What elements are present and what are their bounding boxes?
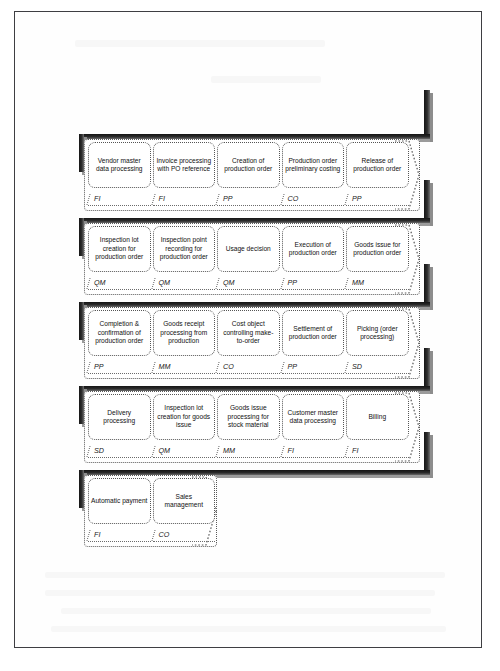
step-label: Picking (order processing) bbox=[349, 325, 406, 342]
module-tag: PP bbox=[282, 277, 345, 290]
paper-bleed-artifact bbox=[45, 572, 445, 578]
module-tag-label: MM bbox=[159, 362, 171, 371]
step-label: Inspection point recording for productio… bbox=[156, 236, 213, 261]
step-label: Settlement of production order bbox=[285, 325, 342, 342]
paper-bleed-artifact bbox=[51, 626, 446, 632]
module-tag-label: FI bbox=[159, 194, 165, 203]
paper-bleed-artifact bbox=[211, 76, 321, 83]
module-tag-label: PP bbox=[94, 362, 104, 371]
step-box[interactable]: Execution of production order bbox=[282, 226, 345, 272]
step-box[interactable]: Picking (order processing) bbox=[346, 310, 409, 356]
step-label: Usage decision bbox=[226, 245, 271, 253]
page-frame: Vendor master data processingInvoice pro… bbox=[14, 11, 482, 648]
module-tag: QM bbox=[88, 277, 151, 290]
step-label: Customer master data processing bbox=[285, 409, 342, 426]
step-box[interactable]: Customer master data processing bbox=[282, 394, 345, 440]
step-label: Delivery processing bbox=[91, 409, 148, 426]
module-tag-label: QM bbox=[223, 278, 235, 287]
step-label: Invoice processing with PO reference bbox=[156, 157, 213, 174]
process-row-2: Inspection lot creation for production o… bbox=[84, 223, 420, 295]
module-tag-label: FI bbox=[288, 446, 294, 455]
step-label: Sales management bbox=[156, 493, 213, 510]
module-tag-label: PP bbox=[288, 278, 298, 287]
step-box-group: Delivery processingInspection lot creati… bbox=[88, 394, 411, 440]
step-label: Inspection lot creation for production o… bbox=[91, 236, 148, 261]
module-tag-label: PP bbox=[352, 194, 362, 203]
step-box[interactable]: Cost object controlling make-to-order bbox=[217, 310, 280, 356]
module-tag: SD bbox=[346, 361, 409, 374]
step-box[interactable]: Vendor master data processing bbox=[88, 142, 151, 188]
module-tag-label: PP bbox=[288, 362, 298, 371]
step-label: Automatic payment bbox=[91, 497, 147, 505]
step-box[interactable]: Automatic payment bbox=[88, 478, 151, 524]
paper-bleed-artifact bbox=[61, 608, 431, 614]
module-tag: PP bbox=[217, 193, 280, 206]
module-tag-label: CO bbox=[288, 194, 299, 203]
module-tag-label: FI bbox=[94, 530, 100, 539]
step-box[interactable]: Production order preliminary costing bbox=[282, 142, 345, 188]
module-tag: QM bbox=[153, 445, 216, 458]
step-box[interactable]: Release of production order bbox=[346, 142, 409, 188]
step-label: Production order preliminary costing bbox=[285, 157, 342, 174]
process-row-3: Completion & confirmation of production … bbox=[84, 307, 420, 379]
flow-entry-connector bbox=[424, 90, 430, 139]
step-box[interactable]: Inspection point recording for productio… bbox=[153, 226, 216, 272]
step-label: Inspection lot creation for goods issue bbox=[156, 404, 213, 429]
step-box[interactable]: Goods receipt processing from production bbox=[153, 310, 216, 356]
step-box[interactable]: Creation of production order bbox=[217, 142, 280, 188]
step-box[interactable]: Sales management bbox=[153, 478, 216, 524]
module-tag: FI bbox=[346, 445, 409, 458]
module-tag-group: PPMMCOPPSD bbox=[88, 359, 411, 375]
paper-bleed-artifact bbox=[75, 40, 325, 47]
module-tag: PP bbox=[282, 361, 345, 374]
step-label: Completion & confirmation of production … bbox=[91, 320, 148, 345]
module-tag-group: FICO bbox=[88, 527, 217, 543]
module-tag: FI bbox=[88, 193, 151, 206]
module-tag: MM bbox=[346, 277, 409, 290]
module-tag: MM bbox=[217, 445, 280, 458]
step-label: Goods issue processing for stock materia… bbox=[220, 404, 277, 429]
module-tag-label: MM bbox=[352, 278, 364, 287]
module-tag-label: QM bbox=[159, 278, 171, 287]
step-box[interactable]: Usage decision bbox=[217, 226, 280, 272]
paper-bleed-artifact bbox=[45, 590, 435, 596]
step-box[interactable]: Inspection lot creation for production o… bbox=[88, 226, 151, 272]
step-box-group: Inspection lot creation for production o… bbox=[88, 226, 411, 272]
module-tag: PP bbox=[88, 361, 151, 374]
step-label: Cost object controlling make-to-order bbox=[220, 320, 277, 345]
module-tag: FI bbox=[153, 193, 216, 206]
step-box[interactable]: Settlement of production order bbox=[282, 310, 345, 356]
flow-connector-right-1 bbox=[424, 180, 430, 221]
step-box[interactable]: Invoice processing with PO reference bbox=[153, 142, 216, 188]
step-box[interactable]: Billing bbox=[346, 394, 409, 440]
module-tag-label: FI bbox=[94, 194, 100, 203]
step-label: Vendor master data processing bbox=[91, 157, 148, 174]
module-tag-label: QM bbox=[94, 278, 106, 287]
module-tag-group: QMQMQMPPMM bbox=[88, 275, 411, 291]
step-box[interactable]: Completion & confirmation of production … bbox=[88, 310, 151, 356]
module-tag-group: FIFIPPCOPP bbox=[88, 191, 411, 207]
step-box[interactable]: Goods issue for production order bbox=[346, 226, 409, 272]
flow-connector-right-2 bbox=[424, 264, 430, 305]
step-label: Execution of production order bbox=[285, 241, 342, 258]
process-row-5: Automatic paymentSales managementFICO bbox=[84, 475, 217, 547]
step-box-group: Automatic paymentSales management bbox=[88, 478, 215, 524]
module-tag-label: QM bbox=[159, 446, 171, 455]
step-box[interactable]: Delivery processing bbox=[88, 394, 151, 440]
module-tag: MM bbox=[153, 361, 216, 374]
module-tag-label: MM bbox=[223, 446, 235, 455]
step-box[interactable]: Goods issue processing for stock materia… bbox=[217, 394, 280, 440]
step-box[interactable]: Inspection lot creation for goods issue bbox=[153, 394, 216, 440]
step-box-group: Completion & confirmation of production … bbox=[88, 310, 411, 356]
step-label: Release of production order bbox=[349, 157, 406, 174]
module-tag-label: CO bbox=[223, 362, 234, 371]
process-row-4: Delivery processingInspection lot creati… bbox=[84, 391, 420, 463]
step-label: Goods receipt processing from production bbox=[156, 320, 213, 345]
module-tag: SD bbox=[88, 445, 151, 458]
module-tag: QM bbox=[153, 277, 216, 290]
module-tag: CO bbox=[282, 193, 345, 206]
module-tag-label: SD bbox=[94, 446, 104, 455]
process-row-1: Vendor master data processingInvoice pro… bbox=[84, 139, 420, 211]
module-tag-label: PP bbox=[223, 194, 233, 203]
step-label: Billing bbox=[368, 413, 386, 421]
